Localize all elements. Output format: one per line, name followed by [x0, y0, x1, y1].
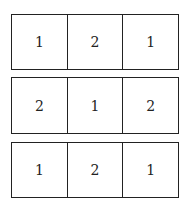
grid-cell: 1	[122, 15, 178, 69]
grid-row-2: 2 1 2	[11, 77, 179, 134]
grid-cell: 1	[12, 15, 67, 69]
grid-row-3: 1 2 1	[11, 142, 179, 198]
grid-cell: 1	[12, 143, 67, 197]
grid-row-1: 1 2 1	[11, 14, 179, 70]
grid-cell: 2	[67, 143, 123, 197]
grid-cell: 2	[67, 15, 123, 69]
grid-cell: 2	[12, 78, 67, 133]
grid-cell: 1	[122, 143, 178, 197]
grid-cell: 1	[67, 78, 123, 133]
grid-cell: 2	[122, 78, 178, 133]
